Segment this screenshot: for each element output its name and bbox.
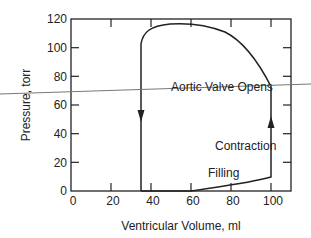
svg-text:20: 20 xyxy=(54,156,68,170)
svg-text:80: 80 xyxy=(226,194,240,208)
svg-text:40: 40 xyxy=(54,127,68,141)
pv-loop-chart: 0 20 40 60 80 100 120 0 20 40 60 80 100 … xyxy=(0,0,311,238)
x-ticks xyxy=(111,19,271,191)
svg-text:120: 120 xyxy=(47,12,67,26)
x-axis-label: Ventricular Volume, ml xyxy=(121,219,240,233)
arrow-up-icon xyxy=(268,116,275,128)
svg-text:60: 60 xyxy=(54,98,68,112)
y-tick-labels: 0 20 40 60 80 100 120 xyxy=(47,12,67,198)
svg-text:20: 20 xyxy=(106,194,120,208)
pv-loop-curve xyxy=(141,24,271,191)
svg-text:100: 100 xyxy=(47,41,67,55)
svg-text:40: 40 xyxy=(146,194,160,208)
svg-text:80: 80 xyxy=(54,70,68,84)
svg-text:0: 0 xyxy=(60,184,67,198)
plot-frame xyxy=(71,19,291,191)
svg-text:0: 0 xyxy=(70,194,77,208)
contraction-annotation: Contraction xyxy=(215,139,276,153)
x-tick-labels: 0 20 40 60 80 100 xyxy=(70,194,284,208)
aortic-valve-annotation: Aortic Valve Opens xyxy=(171,80,273,94)
svg-text:100: 100 xyxy=(263,194,283,208)
svg-text:60: 60 xyxy=(186,194,200,208)
filling-annotation: Filling xyxy=(208,166,239,180)
arrow-down-icon xyxy=(138,110,145,122)
y-axis-label: Pressure, torr xyxy=(19,69,33,142)
